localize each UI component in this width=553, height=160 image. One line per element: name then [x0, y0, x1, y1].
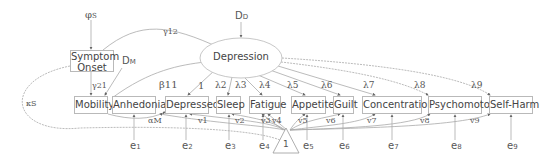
symptom-onset-line1: Symptom: [71, 51, 113, 62]
label-v6: v6: [326, 116, 336, 125]
label-lambda5: λ5: [287, 80, 298, 90]
label-lambda2: λ2: [215, 80, 226, 90]
node-appetite: Appetite: [291, 96, 326, 114]
label-v5: v5: [298, 116, 308, 125]
error-e4: e4: [259, 140, 270, 151]
label-alpha-m: αM: [148, 116, 162, 125]
label-gamma12: γ12: [163, 27, 178, 36]
label-v3: v3: [261, 116, 271, 125]
label-v4: v4: [272, 116, 282, 125]
node-psychomotor: Psychomotor: [428, 96, 482, 114]
error-e2: e2: [182, 140, 193, 151]
label-dd: DD: [235, 10, 248, 21]
label-v7: v7: [367, 116, 377, 125]
error-e1: e1: [130, 140, 141, 151]
node-anhedonia: Anhedonia: [112, 96, 156, 114]
label-lambda3: λ3: [235, 80, 246, 90]
label-lambda7: λ7: [363, 80, 374, 90]
symptom-onset-line2: Onset: [71, 62, 113, 73]
node-guilt: Guilt: [333, 96, 354, 114]
constant-label: 1: [283, 139, 289, 149]
error-e7: e7: [388, 140, 399, 151]
node-mobility: Mobility: [74, 96, 108, 114]
error-e3: e3: [225, 140, 236, 151]
node-depressed: Depressed: [165, 96, 209, 114]
node-concentration: Concentration: [362, 96, 422, 114]
label-v9: v9: [470, 116, 480, 125]
label-dm: DM: [122, 55, 136, 66]
label-one: 1: [198, 80, 204, 91]
label-kappa: κS: [26, 99, 36, 108]
label-lambda9: λ9: [471, 80, 482, 90]
node-self-harm: Self-Harm: [489, 96, 533, 114]
error-e5: e5: [303, 140, 314, 151]
label-v8: v8: [420, 116, 430, 125]
label-gamma21: γ21: [92, 81, 107, 90]
label-v2: v2: [235, 116, 245, 125]
label-lambda6: λ6: [321, 80, 332, 90]
label-v1: v1: [198, 116, 208, 125]
node-fatigue: Fatigue: [249, 96, 281, 114]
error-e8: e8: [451, 140, 462, 151]
label-beta11: β11: [159, 79, 178, 90]
node-depression: Depression: [200, 51, 282, 62]
node-sleep: Sleep: [216, 96, 241, 114]
label-phi-s: φS: [85, 9, 97, 20]
label-lambda8: λ8: [414, 80, 425, 90]
node-symptom-onset: Symptom Onset: [70, 50, 114, 72]
error-e6: e6: [339, 140, 350, 151]
error-e9: e9: [507, 140, 518, 151]
label-lambda4: λ4: [259, 80, 270, 90]
